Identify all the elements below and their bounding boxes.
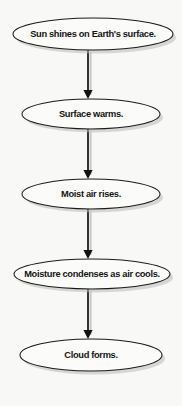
connector-sun-to-surface [83,50,92,99]
flow-node-cloud-forms[interactable]: Cloud forms. [20,339,165,375]
flow-node-sun-shines[interactable]: Sun shines on Earth's surface. [13,18,176,54]
flowchart-diagram: Sun shines on Earth's surface. Surface w… [0,0,182,406]
flow-node-label: Surface warms. [59,109,123,119]
connector-moist-to-moisture [83,209,92,259]
flowchart-canvas: Sun shines on Earth's surface. Surface w… [0,0,182,406]
flow-node-label: Moisture condenses as air cools. [24,269,160,279]
flow-node-moist-air-rises[interactable]: Moist air rises. [22,179,163,213]
flow-node-label: Sun shines on Earth's surface. [30,29,156,39]
flow-node-label: Moist air rises. [61,189,121,199]
flow-node-moisture-condenses[interactable]: Moisture condenses as air cools. [14,259,173,293]
connector-surface-to-moist [83,129,92,179]
connector-moisture-to-cloud [83,289,92,339]
flow-node-surface-warms[interactable]: Surface warms. [22,99,163,133]
flow-node-label: Cloud forms. [64,350,117,360]
